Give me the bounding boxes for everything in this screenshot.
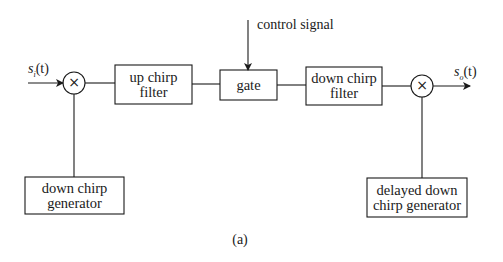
delayed-down-chirp-generator-label: delayed down chirp generator [367,178,467,217]
down-chirp-filter-label: down chirp filter [306,67,382,105]
figure-caption: (a) [228,232,252,247]
left-multiplier-symbol: × [67,75,81,90]
input-signal-label: si(t) [28,61,49,79]
up-chirp-filter-label: up chirp filter [115,65,192,104]
block-diagram-canvas [0,0,503,262]
right-multiplier-symbol: × [415,78,429,93]
output-signal-label: so(t) [454,64,477,82]
control-signal-label: control signal [257,17,334,32]
down-chirp-generator-label: down chirp generator [25,177,124,214]
gate-label: gate [220,70,277,100]
